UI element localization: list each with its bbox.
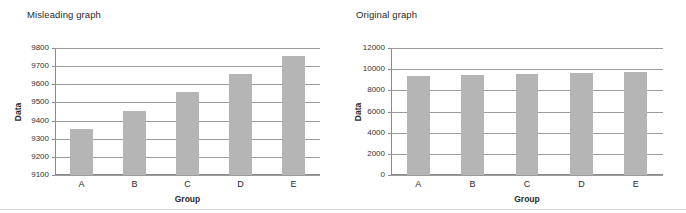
chart-panel-misleading: Misleading graph 91009200930094009500960…	[0, 0, 343, 213]
y-tick-label: 9700	[31, 62, 49, 70]
y-tick-label: 9100	[31, 171, 49, 179]
bar-series	[55, 48, 320, 175]
x-axis-title: Group	[175, 194, 201, 204]
y-tick-label: 9800	[31, 44, 49, 52]
x-tick-label: D	[237, 180, 244, 189]
bar-C	[176, 92, 198, 175]
bar-B	[461, 75, 484, 175]
x-tick-label: C	[524, 180, 531, 189]
y-tick-label: 9400	[31, 117, 49, 125]
y-tick-label: 9300	[31, 135, 49, 143]
bar-C	[516, 74, 539, 175]
chart-panel-original: Original graph 0200040006000800010000120…	[343, 0, 686, 213]
y-tick-label: 4000	[367, 129, 385, 137]
y-axis-title: Data	[353, 102, 363, 120]
figure-two-bar-charts: Misleading graph 91009200930094009500960…	[0, 0, 686, 213]
x-tick-label: E	[633, 180, 639, 189]
bar-E	[624, 72, 647, 175]
gridline	[55, 175, 320, 176]
bar-D	[570, 73, 593, 175]
x-tick-label: C	[184, 180, 191, 189]
chart-title-misleading: Misleading graph	[27, 9, 101, 20]
bar-B	[123, 111, 145, 175]
bottom-divider	[0, 209, 686, 210]
y-axis-title: Data	[13, 102, 23, 120]
y-tick-label: 9200	[31, 153, 49, 161]
x-tick-label: A	[415, 180, 421, 189]
y-tick-label: 8000	[367, 86, 385, 94]
x-tick-label: B	[470, 180, 476, 189]
y-tick-label: 10000	[363, 65, 385, 73]
y-tick-label: 9600	[31, 80, 49, 88]
plot-area-original: 020004000600080001000012000 ABCDE Group …	[391, 48, 663, 175]
y-tick-mark	[52, 175, 55, 176]
x-tick-label: B	[131, 180, 137, 189]
x-tick-label: A	[78, 180, 84, 189]
y-tick-label: 2000	[367, 150, 385, 158]
gridline	[391, 175, 663, 176]
bar-A	[407, 76, 430, 175]
y-tick-mark	[388, 175, 391, 176]
x-tick-label: E	[290, 180, 296, 189]
bar-A	[70, 129, 92, 175]
y-tick-label: 12000	[363, 44, 385, 52]
bar-E	[282, 56, 304, 175]
y-tick-label: 0	[381, 171, 385, 179]
bar-D	[229, 74, 251, 175]
y-tick-label: 6000	[367, 108, 385, 116]
chart-title-original: Original graph	[356, 9, 417, 20]
y-tick-label: 9500	[31, 98, 49, 106]
bar-series	[391, 48, 663, 175]
x-tick-label: D	[578, 180, 585, 189]
plot-area-misleading: 91009200930094009500960097009800 ABCDE G…	[55, 48, 320, 175]
x-axis-title: Group	[514, 194, 540, 204]
